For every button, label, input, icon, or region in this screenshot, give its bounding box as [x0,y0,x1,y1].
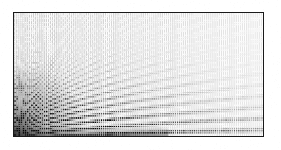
figure-container [0,0,281,150]
plot-frame [13,12,264,137]
moire-dot-pattern-plot [14,13,263,136]
